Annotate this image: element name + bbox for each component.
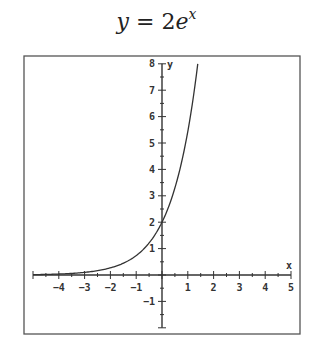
- y-tick-label: 4: [149, 164, 155, 175]
- plot-area: −4−3−2−112345−112345678xy: [0, 0, 313, 356]
- y-tick-label: 5: [149, 138, 155, 149]
- x-tick-label: −2: [104, 282, 116, 293]
- tick-marks: [33, 64, 291, 328]
- y-tick-label: 6: [149, 111, 155, 122]
- y-tick-label: 2: [149, 217, 155, 228]
- x-tick-label: 1: [185, 282, 191, 293]
- y-tick-label: 8: [149, 58, 155, 69]
- y-tick-label: 3: [149, 190, 155, 201]
- y-tick-label: 1: [149, 243, 155, 254]
- x-tick-label: −4: [53, 282, 65, 293]
- y-axis-label: y: [167, 59, 173, 70]
- x-tick-label: 3: [236, 282, 242, 293]
- x-tick-label: 5: [288, 282, 294, 293]
- y-tick-label: 7: [149, 85, 155, 96]
- exponential-curve: [33, 64, 198, 275]
- x-tick-label: 4: [262, 282, 268, 293]
- x-tick-label: −1: [130, 282, 142, 293]
- x-tick-label: 2: [211, 282, 217, 293]
- tick-labels: −4−3−2−112345−112345678xy: [53, 58, 294, 307]
- x-tick-label: −3: [79, 282, 91, 293]
- x-axis-label: x: [286, 260, 292, 271]
- y-tick-label: −1: [143, 296, 155, 307]
